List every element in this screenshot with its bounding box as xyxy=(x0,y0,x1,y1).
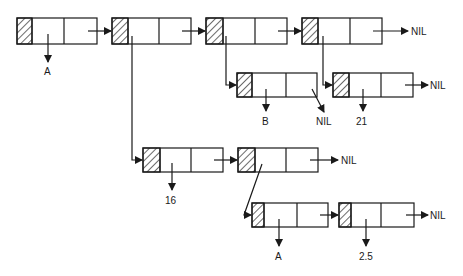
edge-n2-n7 xyxy=(132,36,142,160)
hatched-tag-field xyxy=(339,203,351,227)
nodes xyxy=(17,18,414,227)
label-n6-value: 21 xyxy=(356,116,368,127)
label-n5-nil: NIL xyxy=(316,116,332,127)
edges xyxy=(48,31,428,246)
label-n10-nil: NIL xyxy=(430,210,446,221)
cons-cell-n1 xyxy=(17,18,97,44)
edge-n3-n5 xyxy=(226,36,236,85)
label-n10-value: 2.5 xyxy=(359,251,373,262)
cons-cell-n4 xyxy=(302,18,382,44)
label-n7-value: 16 xyxy=(165,195,177,206)
cons-cell-n7 xyxy=(143,148,223,172)
label-n6-nil: NIL xyxy=(430,80,446,91)
edge-n4-n6 xyxy=(323,36,332,85)
label-n1-value: A xyxy=(44,66,51,77)
cons-cell-n9 xyxy=(252,203,328,227)
hatched-tag-field xyxy=(206,18,223,44)
cons-cell-n6 xyxy=(333,73,413,97)
linked-list-diagram: A NIL B NIL 21 NIL 16 NIL A 2.5 NIL xyxy=(0,0,463,276)
hatched-tag-field xyxy=(112,18,128,44)
cons-cell-n3 xyxy=(206,18,287,44)
hatched-tag-field xyxy=(17,18,32,44)
hatched-tag-field xyxy=(143,148,160,172)
cons-cell-n10 xyxy=(339,203,414,227)
label-n4-nil: NIL xyxy=(411,26,427,37)
label-n5-value: B xyxy=(262,116,269,127)
hatched-tag-field xyxy=(237,73,252,97)
label-n8-nil: NIL xyxy=(341,155,357,166)
hatched-tag-field xyxy=(333,73,349,97)
hatched-tag-field xyxy=(302,18,318,44)
cons-cell-n2 xyxy=(112,18,191,44)
cons-cell-n5 xyxy=(237,73,317,97)
label-n9-value: A xyxy=(275,251,282,262)
cons-cell-n8 xyxy=(238,148,318,172)
hatched-tag-field xyxy=(252,203,264,227)
hatched-tag-field xyxy=(238,148,255,172)
edge-n5-nil xyxy=(312,89,324,112)
